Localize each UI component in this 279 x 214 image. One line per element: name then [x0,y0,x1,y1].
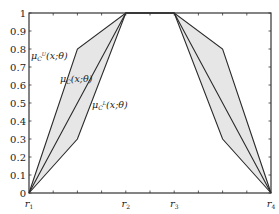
y-tick-label: 0.2 [10,152,26,163]
fuzzy-membership-chart: 00.10.20.30.40.50.60.70.80.91 r1r2r3r4 μ… [0,0,279,214]
y-tick-label: 0.1 [10,170,26,181]
upper-curve-label: μCU(x;θ) [31,50,68,62]
y-tick-label: 0.9 [10,26,26,37]
middle-curve-label: μC(x;θ) [60,73,93,85]
y-tick-label: 0.6 [10,80,26,91]
x-tick-label-r2: r2 [121,198,130,210]
shaded-band [29,13,271,193]
y-tick-label: 0.7 [10,62,26,73]
lower-curve-label: μCL(x;θ) [92,99,128,111]
x-tick-label-r3: r3 [170,198,179,210]
uncertainty-band [29,13,271,193]
x-tick-label-r1: r1 [25,198,34,210]
y-tick-label: 0 [20,188,26,199]
y-tick-label: 0.8 [10,44,26,55]
y-tick-label: 1 [20,8,26,19]
y-tick-label: 0.4 [10,116,26,127]
y-tick-label: 0.3 [10,134,26,145]
y-tick-label: 0.5 [10,98,26,109]
x-tick-label-r4: r4 [267,198,276,210]
